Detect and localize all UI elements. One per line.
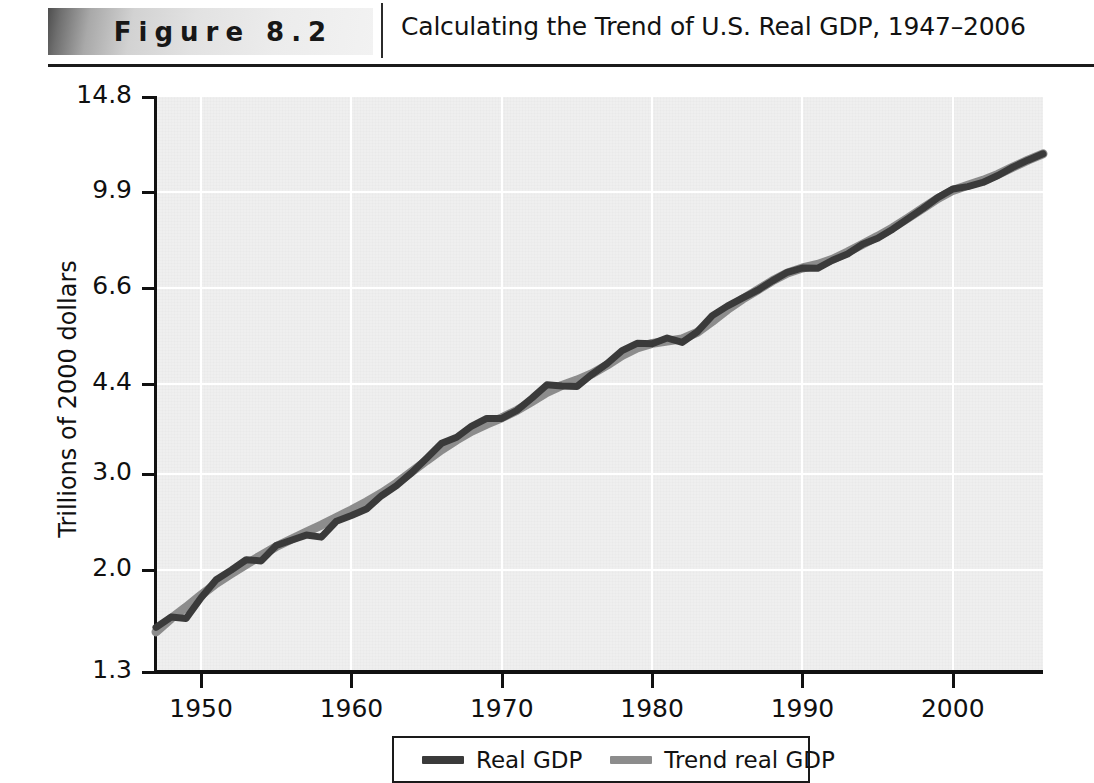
- x-tick-label: 2000: [903, 694, 1003, 723]
- y-tick: [142, 383, 155, 386]
- y-tick: [142, 96, 155, 99]
- x-tick-label: 1960: [301, 694, 401, 723]
- x-tick: [350, 674, 353, 688]
- legend-item[interactable]: Real GDP: [422, 747, 582, 773]
- legend-item[interactable]: Trend real GDP: [610, 747, 835, 773]
- y-tick: [142, 569, 155, 572]
- x-tick: [952, 674, 955, 688]
- y-tick: [142, 671, 155, 674]
- chart-area: 14.89.96.64.43.02.01.3 19501960197019801…: [0, 0, 1094, 783]
- legend-swatch-icon: [422, 756, 464, 764]
- legend-label: Trend real GDP: [664, 747, 835, 773]
- y-tick: [142, 191, 155, 194]
- x-tick-label: 1950: [151, 694, 251, 723]
- x-tick: [801, 674, 804, 688]
- chart-legend: Real GDPTrend real GDP: [392, 736, 810, 783]
- series-line-real-gdp: [156, 154, 1043, 628]
- series-line-trend-real-gdp: [156, 154, 1043, 632]
- legend-swatch-icon: [610, 756, 652, 764]
- y-tick: [142, 473, 155, 476]
- y-tick: [142, 287, 155, 290]
- x-tick: [200, 674, 203, 688]
- x-tick-label: 1970: [452, 694, 552, 723]
- x-tick: [651, 674, 654, 688]
- y-tick-label: 14.8: [72, 80, 132, 109]
- legend-label: Real GDP: [476, 747, 582, 773]
- y-tick-label: 9.9: [72, 175, 132, 204]
- x-tick-label: 1990: [752, 694, 852, 723]
- series-plot: [156, 97, 1043, 672]
- y-tick-label: 1.3: [72, 655, 132, 684]
- y-axis-title: Trillions of 2000 dollars: [54, 219, 82, 579]
- x-tick: [501, 674, 504, 688]
- x-tick-label: 1980: [602, 694, 702, 723]
